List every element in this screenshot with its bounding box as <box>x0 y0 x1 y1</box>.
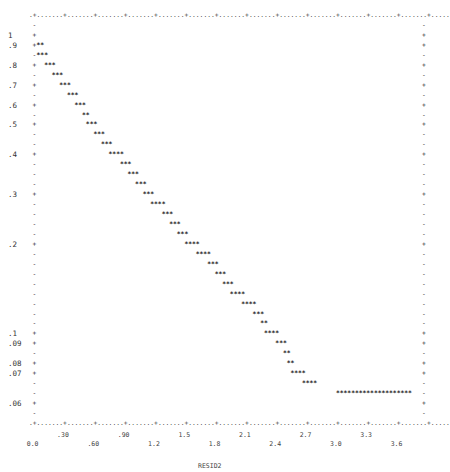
data-point-row: *** <box>162 210 173 218</box>
y-tick-label: .08 <box>8 359 30 368</box>
right-axis-tick: - <box>422 319 426 327</box>
right-axis-tick: - <box>422 409 426 417</box>
left-axis-tick: - <box>32 300 36 308</box>
x-tick-label: 1.5 <box>178 431 190 439</box>
data-point-row: *** <box>59 81 70 89</box>
x-tick-label: 1.8 <box>209 440 221 448</box>
right-axis-tick: - <box>422 310 426 318</box>
left-axis-tick: + <box>32 31 36 39</box>
left-axis-tick: + <box>32 339 36 347</box>
left-axis-tick: + <box>32 150 36 158</box>
right-axis-tick: + <box>422 81 426 89</box>
data-point-row: *** <box>128 170 139 178</box>
data-point-row: ******************** <box>336 389 412 397</box>
x-tick-label: 3.3 <box>360 431 372 439</box>
left-axis-tick: + <box>32 61 36 69</box>
data-point-row: *** <box>253 310 264 318</box>
right-axis-tick: + <box>422 339 426 347</box>
right-axis-tick: + <box>422 61 426 69</box>
x-tick-label: .90 <box>118 431 130 439</box>
data-point-row: *** <box>169 220 180 228</box>
left-axis-tick: - <box>32 280 36 288</box>
y-tick-label: .09 <box>8 339 30 348</box>
data-point-row: *** <box>44 61 55 69</box>
data-point-row: *** <box>101 140 112 148</box>
data-point-row: **** <box>150 200 165 208</box>
left-axis-tick: + <box>32 399 36 407</box>
left-axis-tick: - <box>32 270 36 278</box>
left-axis-tick: - <box>32 200 36 208</box>
left-axis-tick: - <box>32 130 36 138</box>
y-tick-label: .06 <box>8 399 30 408</box>
x-tick-label: .30 <box>57 431 69 439</box>
data-point-row: ** <box>287 359 295 367</box>
left-axis-tick: - <box>32 409 36 417</box>
y-tick-label: .07 <box>8 369 30 378</box>
right-axis-tick: + <box>422 240 426 248</box>
right-axis-tick: - <box>422 21 426 29</box>
left-axis-tick: - <box>32 111 36 119</box>
y-tick-label: .8 <box>8 61 30 70</box>
right-axis-tick: + <box>422 101 426 109</box>
right-axis-tick: - <box>422 71 426 79</box>
right-axis-tick: - <box>422 260 426 268</box>
left-axis-tick: - <box>32 160 36 168</box>
data-point-row: **** <box>302 379 317 387</box>
left-axis-tick: - <box>32 389 36 397</box>
data-point-row: *** <box>135 180 146 188</box>
x-tick-label: 3.0 <box>330 440 342 448</box>
right-axis-tick: - <box>422 220 426 228</box>
right-axis-tick: - <box>422 51 426 59</box>
data-point-row: **** <box>184 240 199 248</box>
left-axis-tick: - <box>32 180 36 188</box>
data-point-row: *** <box>37 51 48 59</box>
left-axis-tick: - <box>32 290 36 298</box>
right-axis-tick: - <box>422 349 426 357</box>
data-point-row: **** <box>291 369 306 377</box>
right-axis-tick: + <box>422 329 426 337</box>
left-axis-tick: - <box>32 349 36 357</box>
right-axis-tick: - <box>422 290 426 298</box>
right-axis-tick: + <box>422 150 426 158</box>
y-tick-label: .5 <box>8 120 30 129</box>
right-axis-tick: - <box>422 180 426 188</box>
data-point-row: **** <box>196 250 211 258</box>
data-point-row: ** <box>37 41 45 49</box>
right-axis-tick: - <box>422 210 426 218</box>
data-point-row: *** <box>67 91 78 99</box>
right-axis-tick: + <box>422 41 426 49</box>
left-axis-tick: - <box>32 91 36 99</box>
data-point-row: ** <box>260 319 268 327</box>
data-point-row: *** <box>207 260 218 268</box>
data-point-row: ** <box>82 111 90 119</box>
left-axis-tick: + <box>32 369 36 377</box>
left-axis-tick: - <box>32 260 36 268</box>
plot-top-border: .+.......+.......+.......+.......+......… <box>29 11 450 19</box>
data-point-row: *** <box>215 270 226 278</box>
x-tick-label: 0.0 <box>27 440 39 448</box>
right-axis-tick: - <box>422 250 426 258</box>
data-point-row: *** <box>177 230 188 238</box>
right-axis-tick: - <box>422 300 426 308</box>
right-axis-tick: + <box>422 120 426 128</box>
y-tick-label: .9 <box>8 41 30 50</box>
y-tick-label: .4 <box>8 150 30 159</box>
data-point-row: *** <box>143 190 154 198</box>
left-axis-tick: + <box>32 81 36 89</box>
right-axis-tick: - <box>422 130 426 138</box>
left-axis-tick: - <box>32 210 36 218</box>
left-axis-tick: - <box>32 21 36 29</box>
right-axis-tick: + <box>422 31 426 39</box>
data-point-row: **** <box>241 300 256 308</box>
data-point-row: *** <box>86 120 97 128</box>
right-axis-tick: - <box>422 91 426 99</box>
x-axis-title: RESID2 <box>198 462 221 470</box>
data-point-row: *** <box>74 101 85 109</box>
x-tick-label: 3.6 <box>391 440 403 448</box>
y-tick-label: .3 <box>8 190 30 199</box>
left-axis-tick: - <box>32 220 36 228</box>
right-axis-tick: + <box>422 399 426 407</box>
y-tick-label: .1 <box>8 329 30 338</box>
right-axis-tick: + <box>422 369 426 377</box>
